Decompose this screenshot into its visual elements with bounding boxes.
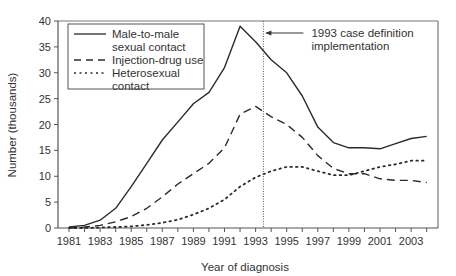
legend-label: Heterosexual — [112, 67, 180, 79]
legend-label: Injection-drug use — [112, 54, 203, 66]
chart: 0510152025303540 19811983198519871989199… — [0, 0, 456, 276]
x-axis-title: Year of diagnosis — [201, 261, 289, 273]
legend-label: Male-to-male — [112, 28, 179, 40]
legend-label: contact — [112, 80, 150, 92]
line-chart-svg: 0510152025303540 19811983198519871989199… — [0, 0, 456, 276]
annotation-text: 1993 case definition — [311, 27, 413, 39]
x-tick-label: 1989 — [181, 235, 205, 247]
x-tick-label: 2003 — [399, 235, 423, 247]
arrow-left-icon — [265, 31, 271, 36]
x-tick-label: 1999 — [337, 235, 361, 247]
x-tick-label: 1993 — [243, 235, 267, 247]
series-line-1 — [69, 106, 427, 228]
y-axis-title: Number (thousands) — [6, 72, 18, 177]
y-tick-label: 10 — [39, 170, 51, 182]
x-tick-label: 1987 — [150, 235, 174, 247]
legend: Male-to-malesexual contactInjection-drug… — [68, 24, 204, 92]
y-axis: 0510152025303540 — [39, 15, 58, 234]
annotation-text: implementation — [311, 40, 389, 52]
x-tick-label: 1983 — [88, 235, 112, 247]
x-tick-label: 1997 — [306, 235, 330, 247]
y-tick-label: 40 — [39, 15, 51, 27]
y-tick-label: 20 — [39, 119, 51, 131]
y-tick-label: 15 — [39, 144, 51, 156]
y-tick-label: 30 — [39, 67, 51, 79]
x-tick-label: 1991 — [212, 235, 236, 247]
x-tick-label: 1985 — [119, 235, 143, 247]
y-tick-label: 35 — [39, 41, 51, 53]
x-tick-label: 1981 — [57, 235, 81, 247]
y-tick-label: 25 — [39, 93, 51, 105]
y-tick-label: 5 — [45, 196, 51, 208]
x-axis: 1981198319851987198919911993199519971999… — [57, 228, 438, 247]
legend-label: sexual contact — [112, 41, 186, 53]
annotation-1993: 1993 case definitionimplementation — [263, 21, 413, 228]
series-line-2 — [69, 161, 427, 228]
x-tick-label: 2001 — [368, 235, 392, 247]
y-tick-label: 0 — [45, 222, 51, 234]
x-tick-label: 1995 — [274, 235, 298, 247]
